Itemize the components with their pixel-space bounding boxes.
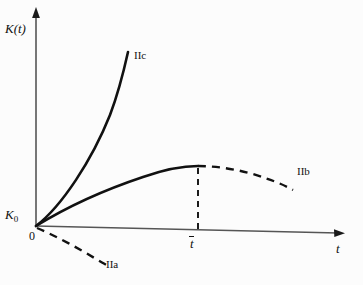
t-bar-label: t	[190, 236, 194, 250]
t-bar-symbol: t	[190, 236, 194, 250]
origin-label: 0	[29, 230, 35, 242]
y-axis-label: K(t)	[5, 22, 26, 35]
curve-IIa-path	[37, 228, 108, 266]
k-zero-label: K0	[5, 208, 18, 224]
curve-label-iic: IIc	[134, 50, 146, 61]
curve-label-iib: IIb	[297, 166, 310, 177]
k-zero-symbol: K	[5, 207, 14, 222]
curve-IIb-path	[198, 166, 293, 190]
y-axis	[32, 7, 40, 226]
k-zero-subscript: 0	[14, 214, 19, 224]
chart-figure: K(t) t 0 K0 t IIa IIb IIc	[0, 0, 363, 285]
plot-canvas	[0, 0, 363, 285]
x-axis-label: t	[336, 242, 340, 255]
curve-label-iia: IIa	[106, 259, 118, 270]
curve-II-path	[36, 166, 198, 226]
